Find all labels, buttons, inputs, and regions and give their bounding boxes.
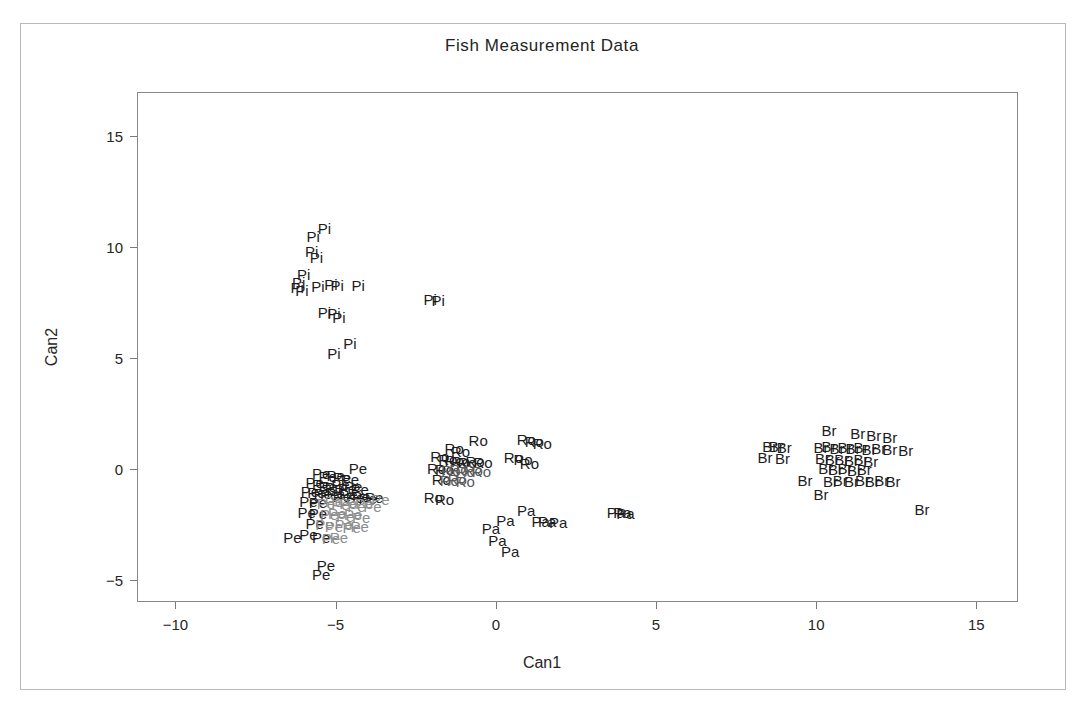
x-axis-label: Can1 xyxy=(0,654,1084,672)
data-point-pi: Pi xyxy=(310,250,323,265)
data-point-ro: Ro xyxy=(520,456,539,471)
data-point-pi: Pi xyxy=(343,335,356,350)
y-tick-label: 15 xyxy=(75,128,123,145)
x-tick-label: 10 xyxy=(808,616,825,633)
y-tick xyxy=(130,580,137,581)
x-tick-label: −5 xyxy=(327,616,344,633)
y-axis-label: Can2 xyxy=(43,328,61,366)
scatter-data-layer: PiPiPiPiPiPiPiPiPiPiPiPiPiPiPiPiPiPiPiPe… xyxy=(137,92,1018,602)
data-point-ro: Ro xyxy=(456,474,475,489)
data-point-br: Br xyxy=(882,442,897,457)
chart-page: Fish Measurement Data PiPiPiPiPiPiPiPiPi… xyxy=(0,0,1084,711)
x-tick-label: 5 xyxy=(652,616,660,633)
data-point-ro: Ro xyxy=(469,433,488,448)
y-tick-label: −5 xyxy=(75,571,123,588)
x-tick-label: 0 xyxy=(492,616,500,633)
data-point-pi: Pi xyxy=(332,310,345,325)
data-point-br: Br xyxy=(914,501,929,516)
data-point-pe: Pe xyxy=(330,529,348,544)
data-point-br: Br xyxy=(775,450,790,465)
data-point-br: Br xyxy=(898,443,913,458)
chart-title: Fish Measurement Data xyxy=(0,36,1084,56)
x-tick xyxy=(496,602,497,609)
data-point-pi: Pi xyxy=(351,277,364,292)
x-tick xyxy=(656,602,657,609)
data-point-br: Br xyxy=(757,449,772,464)
y-tick xyxy=(130,136,137,137)
y-tick xyxy=(130,358,137,359)
x-tick xyxy=(816,602,817,609)
y-tick xyxy=(130,247,137,248)
data-point-br: Br xyxy=(821,423,836,438)
data-point-ro: Ro xyxy=(435,491,454,506)
data-point-pi: Pi xyxy=(431,293,444,308)
y-tick-label: 0 xyxy=(75,460,123,477)
data-point-ro: Ro xyxy=(533,436,552,451)
data-point-pa: Pa xyxy=(549,515,567,530)
x-tick xyxy=(976,602,977,609)
data-point-pi: Pi xyxy=(327,345,340,360)
x-tick-label: 15 xyxy=(968,616,985,633)
x-tick xyxy=(336,602,337,609)
y-tick-label: 10 xyxy=(75,239,123,256)
data-point-pi: Pi xyxy=(295,283,308,298)
data-point-br: Br xyxy=(886,474,901,489)
data-point-br: Br xyxy=(797,473,812,488)
x-tick xyxy=(175,602,176,609)
data-point-pi: Pi xyxy=(311,279,324,294)
data-point-pa: Pa xyxy=(501,544,519,559)
data-point-pa: Pa xyxy=(616,506,634,521)
x-tick-label: −10 xyxy=(163,616,188,633)
data-point-br: Br xyxy=(813,487,828,502)
data-point-pi: Pi xyxy=(331,277,344,292)
data-point-pe: Pe xyxy=(350,518,368,533)
y-tick xyxy=(130,469,137,470)
data-point-pe: Pe xyxy=(312,567,330,582)
y-tick-label: 5 xyxy=(75,350,123,367)
